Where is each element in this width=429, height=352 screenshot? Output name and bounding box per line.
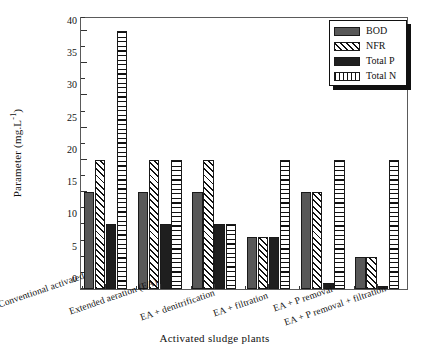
- legend-item: NFR: [334, 39, 402, 53]
- x-axis-minor-tick: [82, 286, 83, 289]
- bar: [117, 31, 128, 289]
- x-axis-category-label: EA + filtration: [212, 290, 269, 318]
- x-axis-minor-tick: [191, 286, 192, 289]
- legend-swatch-icon: [334, 27, 360, 36]
- x-axis-minor-tick: [245, 286, 246, 289]
- bar: [138, 192, 149, 289]
- legend-item: Total P: [334, 54, 402, 68]
- bar: [203, 160, 214, 289]
- bar: [269, 237, 280, 289]
- y-axis-tick: [81, 159, 87, 160]
- legend-item-label: Total P: [366, 56, 394, 66]
- bar: [214, 224, 225, 289]
- y-axis-tick-label: 5: [72, 242, 77, 252]
- y-axis-minor-tick: [81, 46, 85, 47]
- x-axis-tick: [105, 284, 106, 289]
- legend-item: BOD: [334, 24, 402, 38]
- y-axis-title-exponent: -1: [9, 113, 18, 120]
- y-axis-minor-tick: [81, 175, 85, 176]
- y-axis-tick: [81, 127, 87, 128]
- x-axis-minor-tick: [136, 286, 137, 289]
- y-axis-tick-label: 15: [67, 177, 77, 187]
- bar: [95, 160, 106, 289]
- y-axis-tick: [81, 94, 87, 95]
- legend-item-label: NFR: [366, 41, 385, 51]
- y-axis-tick-label: 30: [67, 80, 77, 90]
- x-axis-minor-tick: [299, 286, 300, 289]
- x-axis-category-label: EA + denitrification: [139, 288, 216, 323]
- bar: [366, 257, 377, 289]
- bar: [389, 160, 400, 289]
- bar: [377, 286, 388, 289]
- bar: [106, 224, 117, 289]
- bar: [149, 160, 160, 289]
- bar: [226, 224, 237, 289]
- x-axis-tick: [160, 284, 161, 289]
- x-axis-minor-tick: [354, 286, 355, 289]
- bar: [84, 192, 95, 289]
- bar: [160, 224, 171, 289]
- legend-item: Total N: [334, 69, 402, 83]
- x-axis-title: Activated sludge plants: [0, 332, 429, 344]
- y-axis-minor-tick: [81, 111, 85, 112]
- chart-legend: BODNFRTotal PTotal N: [329, 20, 407, 86]
- y-axis-tick-label: 10: [67, 209, 77, 219]
- y-axis-minor-tick: [81, 143, 85, 144]
- y-axis-tick-label: 0: [72, 274, 77, 284]
- y-axis-title-text: Parameter (mg.L: [11, 120, 23, 198]
- bar: [312, 192, 323, 289]
- bar-chart-figure: Parameter (mg.L-1) 0510152025303540 Conv…: [0, 0, 429, 352]
- y-axis-title: Parameter (mg.L-1): [9, 109, 23, 197]
- x-axis-tick: [377, 284, 378, 289]
- x-axis-tick: [323, 284, 324, 289]
- bar: [301, 192, 312, 289]
- y-axis-tick-label: 25: [67, 113, 77, 123]
- bar: [280, 160, 291, 289]
- y-axis-tick-label: 20: [67, 145, 77, 155]
- bar: [258, 237, 269, 289]
- y-axis-title-suffix: ): [11, 109, 23, 113]
- y-axis-tick: [81, 30, 87, 31]
- bar: [355, 257, 366, 289]
- bar: [323, 283, 334, 289]
- y-axis-tick: [81, 62, 87, 63]
- legend-swatch-icon: [334, 57, 360, 66]
- legend-item-label: BOD: [366, 26, 387, 36]
- y-axis-minor-tick: [81, 78, 85, 79]
- legend-swatch-icon: [334, 72, 360, 81]
- bar: [171, 160, 182, 289]
- x-axis-tick: [214, 284, 215, 289]
- legend-swatch-icon: [334, 42, 360, 51]
- legend-item-label: Total N: [366, 71, 396, 81]
- y-axis-minor-tick: [81, 17, 85, 18]
- y-axis-tick-label: 35: [67, 48, 77, 58]
- x-axis-tick: [268, 284, 269, 289]
- bar: [334, 160, 345, 289]
- bar: [192, 192, 203, 289]
- y-axis-tick-label: 40: [67, 16, 77, 26]
- bar: [247, 237, 258, 289]
